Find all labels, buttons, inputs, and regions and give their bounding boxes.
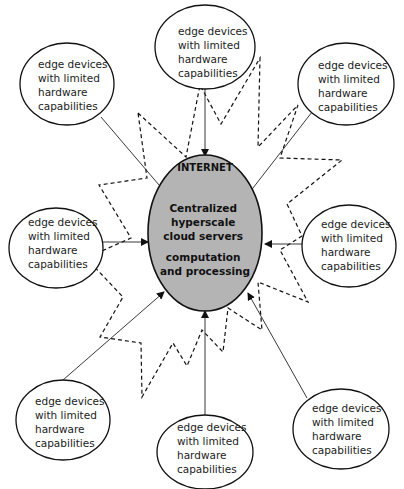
connector-bottom-left [63,292,164,380]
edge-node-bottom: edge deviceswith limitedhardwarecapabili… [157,415,253,489]
edge-cloud-diagram: INTERNET Centralized hyperscale cloud se… [0,0,404,489]
edge-node-left: edge deviceswith limitedhardwarecapabili… [9,208,103,288]
connector-bottom-right [248,293,307,398]
edge-node-top-right: edge deviceswith limitedhardwarecapabili… [298,43,394,125]
center-label: Centralized hyperscale cloud servers com… [160,202,250,277]
edge-node-top-left: edge deviceswith limitedhardwarecapabili… [20,43,114,125]
edge-node-top: edge deviceswith limitedhardwarecapabili… [155,5,255,89]
edge-node-bottom-right: edge deviceswith limitedhardwarecapabili… [293,389,389,469]
edge-node-bottom-left: edge deviceswith limitedhardwarecapabili… [16,380,110,460]
internet-label: INTERNET [177,162,233,173]
edge-node-right: edge deviceswith limitedhardwarecapabili… [302,205,396,287]
